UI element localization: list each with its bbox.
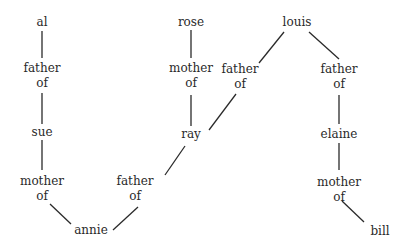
node-label: elaine [321,127,358,141]
relation-line1: mother [317,175,361,190]
node-louis: louis [283,15,312,30]
relation-line2: of [222,77,259,92]
relation-line2: of [317,190,361,205]
node-label: ray [181,127,201,141]
relation-line1: father [222,62,259,77]
edge-layer [0,0,409,248]
edge-louis-father-of-right [309,32,339,59]
node-label: rose [178,15,204,29]
edge-father-of-left-ray [209,94,236,130]
node-label: al [37,15,48,29]
node-father-of-al: father of [24,61,61,91]
node-mother-of-rose: mother of [169,61,213,91]
node-father-of-louis-right: father of [321,62,358,92]
edge-father-of-annie [113,207,138,230]
family-graph-diagram: al father of sue mother of annie rose mo… [0,0,409,248]
relation-line1: mother [20,174,64,189]
relation-line2: of [321,77,358,92]
node-mother-of-elaine: mother of [317,175,361,205]
relation-line2: of [117,189,154,204]
node-al: al [37,15,48,30]
relation-line1: father [321,62,358,77]
node-father-of-louis-left: father of [222,62,259,92]
relation-line1: father [24,61,61,76]
node-father-of-ray: father of [117,174,154,204]
edge-louis-father-of-left [259,32,284,63]
node-label: annie [74,223,108,237]
relation-line1: mother [169,61,213,76]
node-ray: ray [181,127,201,142]
node-bill: bill [370,224,389,239]
node-label: louis [283,15,312,29]
edge-ray-father-of [165,146,185,175]
relation-line2: of [169,76,213,91]
node-label: sue [32,125,53,139]
node-label: bill [370,224,389,238]
relation-line1: father [117,174,154,189]
relation-line2: of [20,189,64,204]
relation-line2: of [24,76,61,91]
node-sue: sue [32,125,53,140]
node-mother-of-sue: mother of [20,174,64,204]
node-elaine: elaine [321,127,358,142]
node-annie: annie [74,223,108,238]
node-rose: rose [178,15,204,30]
edge-mother-of-annie [50,204,71,224]
